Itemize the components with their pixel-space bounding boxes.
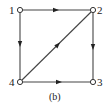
- node-4: [17, 79, 22, 84]
- edges: [18, 8, 95, 84]
- node-label-2: 2: [97, 4, 103, 16]
- node-1: [17, 7, 22, 12]
- node-2: [90, 7, 95, 12]
- node-label-1: 1: [9, 4, 15, 16]
- node-label-3: 3: [97, 76, 103, 88]
- arrow-1-2-icon: [53, 8, 59, 12]
- directed-graph: 1 2 3 4 (b): [0, 0, 107, 108]
- node-label-4: 4: [9, 76, 15, 88]
- figure-caption: (b): [49, 91, 61, 103]
- node-3: [90, 79, 95, 84]
- arrow-4-3-icon: [56, 80, 62, 84]
- arrow-2-3-icon: [91, 44, 95, 50]
- arrow-1-4-icon: [18, 41, 22, 47]
